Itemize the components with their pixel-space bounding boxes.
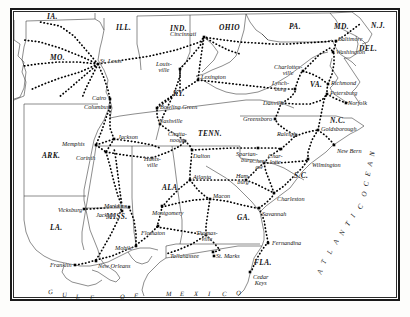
city-label-stmarks: St. Marks	[216, 253, 240, 259]
city-label-macon: Macon	[213, 193, 230, 199]
city-dot-greensboro	[274, 118, 277, 121]
state-label-nj: N.J.	[371, 22, 385, 29]
gulf-label-letter: U	[62, 291, 67, 298]
city-dot-petersburg	[326, 93, 329, 96]
atlantic-label-letter: O	[360, 191, 369, 198]
city-label-huntsville: Hunts-ville	[144, 156, 161, 168]
city-dot-newbern	[333, 144, 336, 147]
city-dot-memphis	[95, 144, 98, 147]
city-dot-spartanburg	[257, 147, 260, 150]
city-label-wilmington: Wilmington	[312, 162, 341, 168]
state-label-fla: FLA.	[254, 259, 272, 266]
city-dot-atlanta	[189, 179, 192, 182]
gulf-label-letter: O	[120, 293, 125, 300]
state-label-sc: S.C.	[294, 172, 308, 179]
city-dot-fernandina	[267, 242, 270, 245]
state-label-pa: PA.	[289, 23, 301, 30]
city-dot-mobile	[135, 245, 138, 248]
city-label-louisville: Louis-ville	[156, 61, 172, 73]
city-label-dalton: Dalton	[193, 153, 210, 159]
city-dot-macon	[209, 198, 212, 201]
city-label-cheraw: Cher-aw	[252, 158, 266, 170]
city-label-vicksburg: Vicksburg	[58, 207, 82, 213]
state-label-va: VA.	[310, 81, 322, 88]
city-dot-dalton	[191, 149, 194, 152]
city-dot-stlouis	[97, 63, 100, 66]
city-dot-lynchburg	[294, 88, 297, 91]
state-label-md: MD.	[334, 23, 349, 30]
city-label-corinth: Corinth	[76, 155, 95, 161]
city-dot-charleston	[273, 192, 276, 195]
city-label-charlottesville: Charlottes-ville	[274, 64, 302, 76]
state-label-ga: GA.	[237, 214, 250, 221]
city-dot-neworleans	[95, 260, 98, 263]
city-label-greensboro: Greensboro	[243, 116, 272, 122]
city-label-fernandina: Fernandina	[272, 240, 301, 246]
state-label-ala: ALA.	[162, 184, 180, 191]
gulf-label-letter: C	[222, 290, 227, 297]
city-label-bowlinggreen: Bowling Green	[160, 104, 197, 110]
city-label-flomaton: Flomaton	[141, 230, 165, 236]
city-dot-goldsborough	[317, 129, 320, 132]
city-dot-richmond	[327, 83, 330, 86]
city-dot-norfolk	[345, 102, 348, 105]
city-dot-washington	[332, 51, 335, 54]
city-dot-corinth	[105, 151, 108, 154]
city-dot-franklin	[74, 264, 77, 267]
city-label-danville: Danville	[263, 100, 284, 106]
city-label-charlotte: Char-lotte	[268, 153, 283, 165]
state-label-ark: ARK.	[42, 152, 60, 159]
city-dot-tallahassee	[212, 251, 215, 254]
city-label-goldsborough: Goldsborough	[321, 126, 357, 132]
city-label-norfolk: Norfolk	[348, 100, 367, 106]
city-label-meridian: Meridian	[104, 203, 127, 209]
state-label-ky: KY.	[173, 90, 185, 97]
city-label-cincinnati: Cincinnati	[170, 31, 196, 37]
gulf-label-letter: F	[90, 294, 94, 301]
historical-railroad-map: IA.ILL.IND.OHIOPA.MD.N.J.DEL.MO.KY.VA.N.…	[0, 0, 410, 317]
gulf-label-letter: E	[180, 290, 184, 297]
city-label-charleston: Charleston	[277, 196, 305, 202]
city-label-jackson: Jackson	[118, 134, 138, 140]
city-label-baltimore: Baltimore	[338, 36, 363, 42]
gulf-label-letter: M	[166, 290, 172, 297]
city-label-cedarkeys: CedarKeys	[253, 274, 268, 286]
city-label-lexington: Lexington	[201, 74, 226, 80]
city-label-montgomery: Montgomery	[152, 210, 184, 216]
city-dot-lexington	[197, 79, 200, 82]
city-label-franklin: Franklin	[50, 262, 72, 268]
state-label-ohio: OHIO	[219, 24, 240, 31]
city-dot-jackson	[113, 138, 116, 141]
city-dot-charlotte	[280, 148, 283, 151]
state-label-nc: N.C.	[330, 117, 346, 124]
city-dot-cairo	[109, 98, 112, 101]
city-label-columbus: Columbus	[84, 104, 109, 110]
city-label-mobile: Mobile	[115, 245, 133, 251]
gulf-label-letter: G	[48, 288, 53, 295]
city-dot-bowlinggreen	[156, 107, 159, 110]
state-label-mo: MO.	[50, 54, 65, 61]
city-label-washington: Washington	[336, 49, 365, 55]
city-dot-wilmington	[307, 158, 310, 161]
city-label-tallahassee: Tallahassee	[170, 253, 199, 259]
city-dot-vicksburg	[83, 208, 86, 211]
city-label-chattanooga: Chatta-nooga	[168, 131, 187, 143]
city-dot-flomaton	[157, 225, 160, 228]
city-label-newbern: New Bern	[337, 148, 362, 154]
city-dot-louisville	[179, 68, 182, 71]
state-label-ia: IA.	[47, 13, 58, 20]
state-label-tenn: TENN.	[198, 130, 222, 137]
city-dot-baltimore	[335, 40, 338, 43]
city-label-memphis: Memphis	[62, 141, 85, 147]
city-label-raleigh: Raleigh	[277, 131, 296, 137]
city-label-cairo: Cairo	[92, 95, 106, 101]
gulf-label-letter: O	[236, 289, 241, 296]
gulf-label-letter: F	[134, 292, 138, 299]
city-label-neworleans: New Orleans	[98, 263, 130, 269]
state-label-la: LA.	[50, 224, 63, 231]
state-label-ill: ILL.	[116, 24, 131, 31]
city-label-richmond: Richmond	[331, 80, 356, 86]
city-dot-savannah	[258, 207, 261, 210]
gulf-label-letter: I	[208, 290, 210, 297]
city-label-thomasville: Thomas-ville	[196, 230, 218, 242]
